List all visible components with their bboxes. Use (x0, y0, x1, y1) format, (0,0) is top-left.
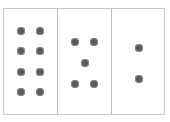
dot (71, 80, 79, 88)
dot (90, 80, 98, 88)
dot (36, 27, 44, 35)
dot (81, 59, 89, 67)
dot (135, 75, 143, 83)
dot (36, 88, 44, 96)
dot (17, 68, 25, 76)
panel-two-dots (112, 9, 164, 114)
dot (17, 27, 25, 35)
dot (71, 38, 79, 46)
panel-five-dots (58, 9, 111, 114)
dot (135, 44, 143, 52)
dot (36, 68, 44, 76)
dot (36, 47, 44, 55)
dot (17, 88, 25, 96)
dot (90, 38, 98, 46)
panels-frame (3, 8, 165, 115)
dot (17, 47, 25, 55)
panel-eight-dots (4, 9, 57, 114)
